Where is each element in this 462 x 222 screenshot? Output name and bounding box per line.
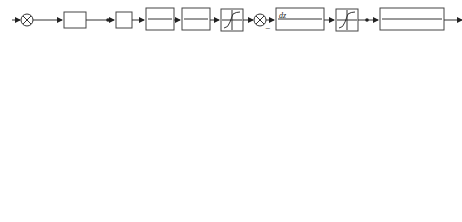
svg-text:−: − [265, 23, 270, 33]
summing-junction-1 [21, 14, 33, 26]
block-diagram: − dz [0, 0, 462, 222]
junction-dot-I [106, 18, 110, 22]
block-k4 [64, 12, 86, 28]
block-r1 [116, 12, 132, 28]
